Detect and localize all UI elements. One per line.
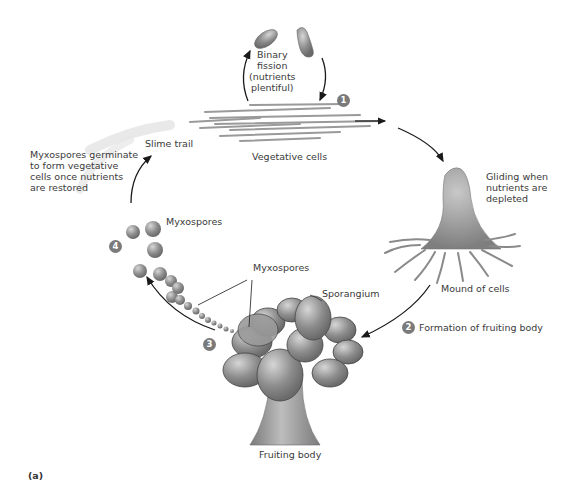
label-vegetative-cells: Vegetative cells xyxy=(252,151,327,162)
label-binary-fission: Binary fission (nutrients plentiful) xyxy=(249,49,296,93)
fission-arrow-down xyxy=(320,58,326,100)
fruiting-body xyxy=(223,296,363,445)
label-sporangium: Sporangium xyxy=(322,288,380,299)
step-badge-3: 3 xyxy=(203,338,216,351)
step-badge-1: 1 xyxy=(337,94,350,107)
step-badge-2: 2 xyxy=(402,321,415,334)
label-slime-trail: Slime trail xyxy=(145,138,193,149)
label-myxospores-mid: Myxospores xyxy=(253,262,309,273)
panel-label: (a) xyxy=(28,470,43,481)
label-formation-fruiting-body: Formation of fruiting body xyxy=(419,322,543,333)
label-gliding: Gliding when nutrients are depleted xyxy=(486,171,548,204)
label-mound-of-cells: Mound of cells xyxy=(441,283,510,294)
label-fruiting-body: Fruiting body xyxy=(259,449,321,460)
label-germinate: Myxospores germinate to form vegetative … xyxy=(30,149,138,193)
label-myxospores-top: Myxospores xyxy=(166,216,222,227)
step-badge-4: 4 xyxy=(109,240,122,253)
arrow-to-mound xyxy=(398,128,443,161)
myxospores-chain xyxy=(126,221,234,333)
